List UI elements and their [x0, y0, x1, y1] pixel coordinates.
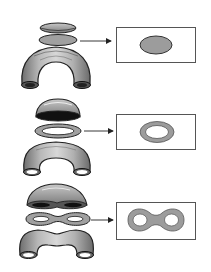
cross-section-diagram — [0, 0, 211, 272]
solid-tube-icon — [22, 47, 91, 89]
cross-section-box-ring — [117, 115, 196, 150]
row-solid-tube — [22, 23, 196, 89]
row-hollow-tube — [24, 99, 196, 176]
figure-eight-slice-icon — [26, 213, 90, 226]
double-cap-icon — [27, 184, 87, 209]
row-double-hollow-tube — [20, 184, 196, 259]
ring-slice-icon — [35, 124, 81, 138]
double-tube-icon — [20, 230, 94, 259]
hollow-cap-icon — [36, 99, 80, 121]
filled-ellipse-section-icon — [140, 36, 172, 54]
solid-slice-icon — [39, 35, 77, 46]
cross-section-box-solid — [117, 28, 196, 63]
solid-cap-icon — [40, 23, 76, 33]
cross-section-box-figure-eight — [117, 203, 196, 240]
hollow-tube-icon — [24, 142, 91, 176]
